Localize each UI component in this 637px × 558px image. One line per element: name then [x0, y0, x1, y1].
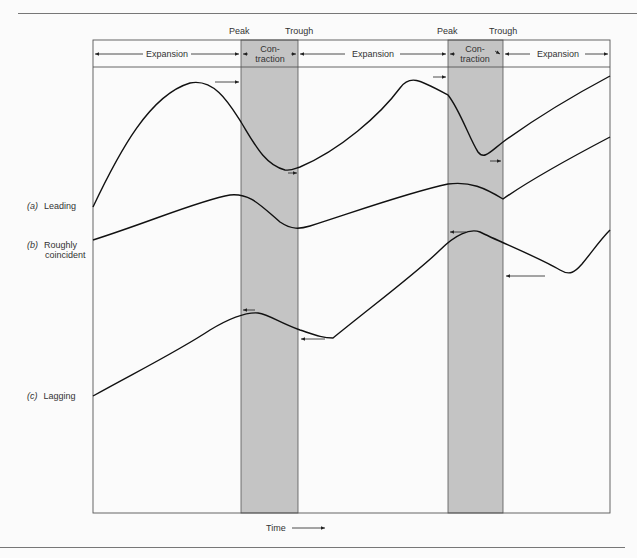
series-tag: (b)	[27, 240, 38, 250]
trough-label-1: Trough	[285, 26, 313, 36]
contraction-line2: traction	[455, 54, 495, 64]
series-tag: (c)	[27, 391, 38, 401]
series-name: Roughly	[44, 240, 77, 250]
leading-curve	[93, 76, 610, 207]
contraction-band-1	[241, 40, 298, 513]
x-axis-label: Time	[266, 523, 286, 533]
business-cycle-diagram	[0, 0, 637, 558]
peak-label-2: Peak	[437, 26, 458, 36]
series-name: Lagging	[44, 391, 76, 401]
contraction-band-2	[448, 40, 503, 513]
series-label-leading: (a)Leading	[27, 201, 76, 211]
phase-contraction-2: Con- traction	[455, 44, 495, 64]
series-name-2: coincident	[45, 250, 86, 260]
series-label-coincident: (b)Roughly coincident	[27, 240, 86, 260]
phase-contraction-1: Con- traction	[250, 44, 290, 64]
contraction-line2: traction	[250, 54, 290, 64]
phase-expansion-1: Expansion	[143, 49, 191, 59]
trough-label-2: Trough	[489, 26, 517, 36]
peak-label-1: Peak	[229, 26, 250, 36]
series-label-lagging: (c)Lagging	[27, 391, 76, 401]
phase-expansion-2: Expansion	[346, 49, 400, 59]
series-name: Leading	[44, 201, 76, 211]
contraction-line1: Con-	[455, 44, 495, 54]
lagging-curve	[93, 230, 610, 396]
contraction-line1: Con-	[250, 44, 290, 54]
phase-expansion-3: Expansion	[531, 49, 585, 59]
coincident-curve	[93, 137, 610, 240]
chart-frame	[93, 40, 610, 513]
series-tag: (a)	[27, 201, 38, 211]
